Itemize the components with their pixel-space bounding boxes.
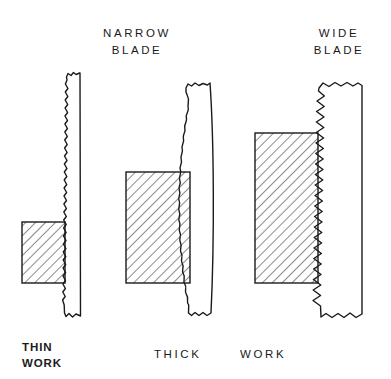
assembly-narrow-blade-thick-work (126, 83, 213, 316)
figure-artwork (0, 0, 391, 379)
assembly-wide-blade-thick-work (255, 83, 362, 318)
thin-work-shape (22, 222, 65, 283)
wide-work-shape (255, 133, 318, 283)
assembly-narrow-blade-thin-work (22, 73, 81, 318)
thick-work-shape (126, 172, 190, 283)
bandsaw-blade-figure: NARROW BLADE WIDE BLADE THIN WORK THICK … (0, 0, 391, 379)
wide-blade-shape (313, 83, 362, 318)
